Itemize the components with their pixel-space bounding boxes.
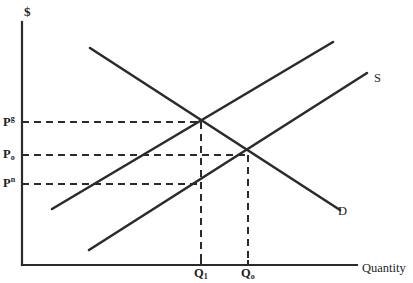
- demand-curve: [90, 48, 340, 210]
- quantity-label-q1-base: Q: [194, 266, 204, 280]
- quantity-label-q0: Qo: [241, 267, 255, 280]
- price-label-p0-subscript: o: [11, 153, 15, 162]
- price-label-pn-base: P: [3, 176, 11, 190]
- price-label-pg-base: P: [3, 115, 11, 129]
- figure-canvas: [0, 0, 413, 283]
- price-label-pn-superscript: n: [11, 175, 15, 184]
- price-label-pn: Pn: [3, 177, 15, 190]
- quantity-label-q0-base: Q: [241, 266, 251, 280]
- quantity-label-q1-subscript: 1: [204, 272, 208, 281]
- price-label-p0-base: P: [3, 147, 11, 161]
- price-label-p0: Po: [3, 148, 15, 161]
- price-label-pg: Pg: [3, 116, 15, 129]
- y-axis-label: $: [24, 5, 31, 18]
- quantity-label-q0-subscript: o: [251, 272, 255, 281]
- supply-curve-label: S: [374, 72, 381, 85]
- supply-demand-figure: $ Quantity Pg Po Pn Q1 Qo S D: [0, 0, 413, 283]
- demand-curve-label: D: [338, 205, 347, 218]
- quantity-label-q1: Q1: [194, 267, 208, 280]
- price-label-pg-superscript: g: [11, 114, 15, 123]
- x-axis-label: Quantity: [362, 262, 406, 275]
